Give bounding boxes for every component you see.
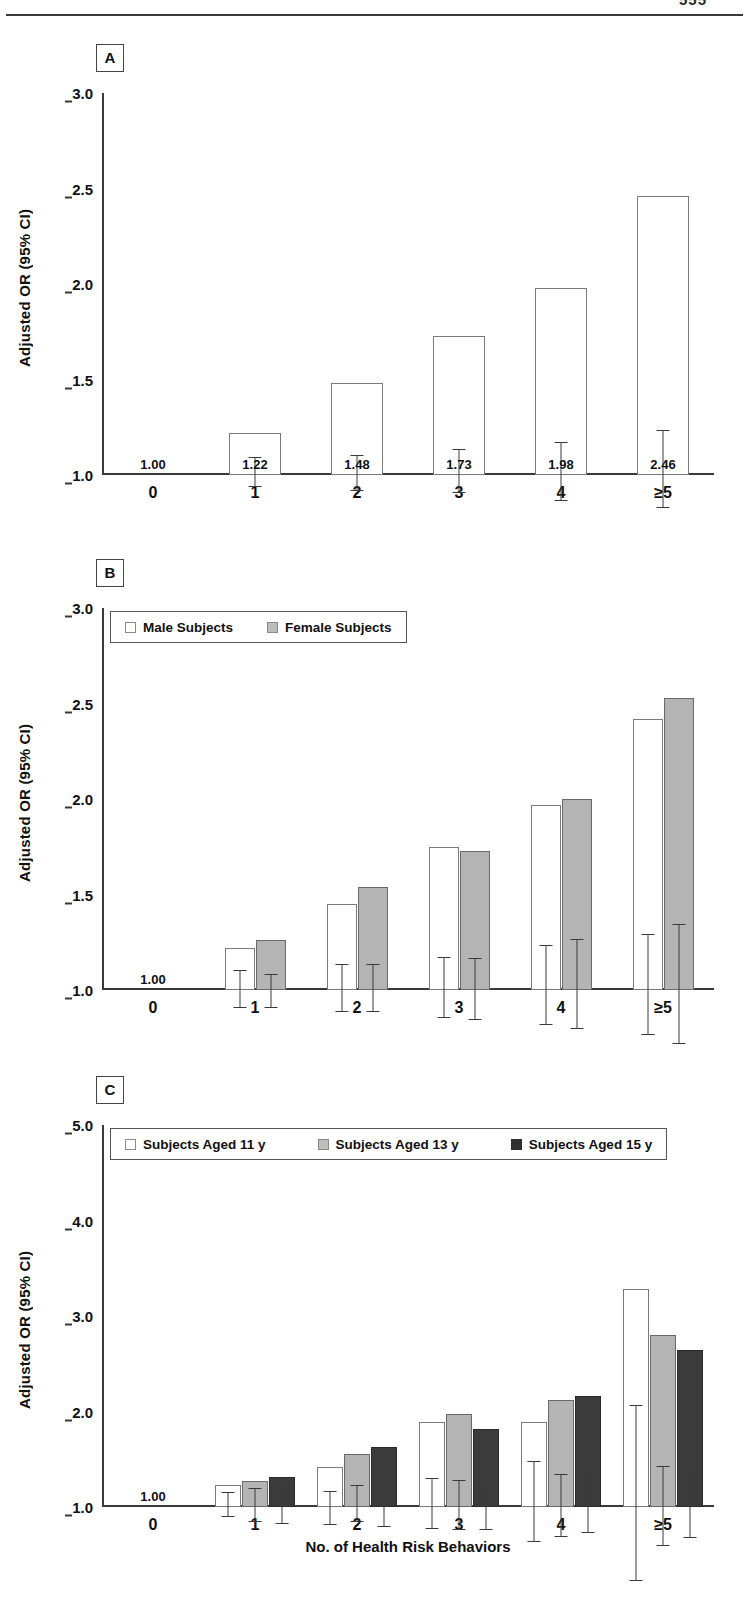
bar-group xyxy=(204,1125,306,1507)
y-axis-tick-label: 2.0 xyxy=(72,1403,102,1420)
bar xyxy=(317,1467,343,1507)
error-bar-cap-top xyxy=(324,1491,337,1492)
y-axis-tick-mark xyxy=(65,998,72,1000)
error-bar-cap-bottom xyxy=(276,1523,289,1524)
error-bar-cap-bottom xyxy=(657,507,670,508)
panel-c-legend: Subjects Aged 11 ySubjects Aged 13 ySubj… xyxy=(110,1128,667,1160)
y-axis-tick-label: 1.5 xyxy=(72,371,102,388)
y-axis-tick-mark xyxy=(65,616,72,618)
panel-c-tag: C xyxy=(96,1076,124,1104)
x-axis-tick-label: 0 xyxy=(149,999,158,1017)
legend-item: Subjects Aged 13 y xyxy=(318,1137,459,1152)
error-bar-cap-bottom xyxy=(630,1580,643,1581)
legend-swatch-white xyxy=(125,1139,136,1150)
bar-group xyxy=(408,1125,510,1507)
panel-c: C Adjusted OR (95% CI) 5.04.03.02.01.001… xyxy=(0,1072,749,1606)
error-bar xyxy=(545,945,546,1025)
error-bar-cap-top xyxy=(657,1466,670,1467)
bar xyxy=(215,1485,241,1507)
error-bar-cap-top xyxy=(222,1492,235,1493)
error-bar-cap-top xyxy=(378,1485,391,1486)
y-axis-tick-mark xyxy=(65,387,72,389)
error-bar-cap-bottom xyxy=(570,1028,583,1029)
error-bar-cap-top xyxy=(426,1478,439,1479)
legend-swatch-gray xyxy=(267,622,278,633)
y-axis-tick-mark xyxy=(65,902,72,904)
error-bar xyxy=(228,1492,229,1518)
error-bar xyxy=(432,1478,433,1529)
y-axis-tick-label: 3.0 xyxy=(72,600,102,617)
error-bar-cap-bottom xyxy=(468,1019,481,1020)
y-axis-tick-mark xyxy=(65,1324,72,1326)
panel-b-plot-area: 3.02.52.01.51.001234≥51.00 xyxy=(102,608,714,990)
panel-c-plot-area: 5.04.03.02.01.001234≥51.00 xyxy=(102,1125,714,1507)
panel-a-y-axis-label: Adjusted OR (95% CI) xyxy=(16,148,33,428)
bar xyxy=(633,719,663,990)
bar xyxy=(623,1289,649,1507)
error-bar-cap-bottom xyxy=(233,1007,246,1008)
y-axis-tick-label: 5.0 xyxy=(72,1117,102,1134)
bar xyxy=(225,948,255,990)
y-axis-tick-mark xyxy=(65,196,72,198)
panel-b-y-axis-label: Adjusted OR (95% CI) xyxy=(16,663,33,943)
page-header: 555 xyxy=(0,0,749,26)
error-bar xyxy=(282,1486,283,1524)
y-axis-tick-mark xyxy=(65,1515,72,1517)
error-bar-cap-bottom xyxy=(437,1017,450,1018)
y-axis-tick-mark xyxy=(65,101,72,103)
reference-value-label: 1.00 xyxy=(140,972,165,987)
panel-b-tag: B xyxy=(96,559,124,587)
error-bar-cap-bottom xyxy=(351,1521,364,1522)
error-bar xyxy=(239,970,240,1008)
bar xyxy=(637,196,689,475)
error-bar-cap-bottom xyxy=(335,1011,348,1012)
reference-value-label: 1.00 xyxy=(140,1489,165,1504)
bar xyxy=(650,1335,676,1507)
x-axis-title: No. of Health Risk Behaviors xyxy=(102,1538,714,1555)
y-axis-tick-mark xyxy=(65,292,72,294)
error-bar xyxy=(690,1469,691,1539)
bar-value-label: 1.98 xyxy=(548,457,573,472)
error-bar xyxy=(474,958,475,1019)
x-axis-tick-label: 0 xyxy=(149,484,158,502)
bar-group xyxy=(204,608,306,990)
error-bar-cap-top xyxy=(351,1485,364,1486)
error-bar-cap-top xyxy=(555,1474,568,1475)
error-bar-cap-bottom xyxy=(249,1521,262,1522)
error-bar-cap-bottom xyxy=(426,1528,439,1529)
bar xyxy=(562,799,592,990)
bar xyxy=(531,805,561,990)
bar-group: 1.00 xyxy=(102,93,204,475)
error-bar-cap-top xyxy=(249,1488,262,1489)
panel-a-plot-area: 3.02.52.01.51.001234≥51.001.221.481.731.… xyxy=(102,93,714,475)
bar xyxy=(242,1481,268,1507)
error-bar xyxy=(270,974,271,1008)
error-bar-cap-bottom xyxy=(366,1011,379,1012)
page-number: 555 xyxy=(679,0,707,8)
error-bar xyxy=(341,964,342,1012)
y-axis-tick-mark xyxy=(65,1133,72,1135)
error-bar-cap-top xyxy=(233,970,246,971)
y-axis-tick-label: 2.5 xyxy=(72,695,102,712)
legend-item: Male Subjects xyxy=(125,620,233,635)
bar-group: 1.98 xyxy=(510,93,612,475)
y-axis-tick-label: 2.5 xyxy=(72,180,102,197)
bar-group: 1.48 xyxy=(306,93,408,475)
error-bar-cap-top xyxy=(335,964,348,965)
bar xyxy=(358,887,388,990)
y-axis-tick-label: 1.5 xyxy=(72,886,102,903)
error-bar-cap-top xyxy=(582,1474,595,1475)
y-axis-tick-mark xyxy=(65,483,72,485)
error-bar xyxy=(255,1488,256,1522)
panel-b-legend: Male SubjectsFemale Subjects xyxy=(110,611,407,643)
error-bar-cap-bottom xyxy=(582,1532,595,1533)
y-axis-tick-label: 4.0 xyxy=(72,1212,102,1229)
legend-item: Female Subjects xyxy=(267,620,392,635)
bar-group: 1.73 xyxy=(408,93,510,475)
error-bar-cap-bottom xyxy=(453,492,466,493)
error-bar xyxy=(357,1485,358,1522)
error-bar-cap-bottom xyxy=(555,500,568,501)
error-bar-cap-top xyxy=(684,1469,697,1470)
legend-label: Male Subjects xyxy=(143,620,233,635)
error-bar-cap-bottom xyxy=(539,1024,552,1025)
